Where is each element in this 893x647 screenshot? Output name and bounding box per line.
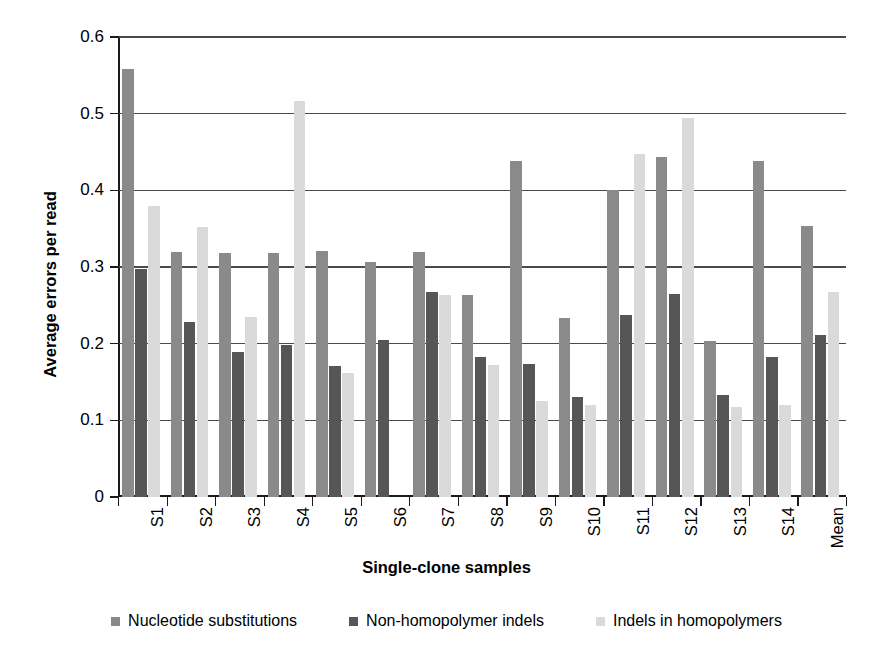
bar <box>475 357 487 497</box>
bar <box>523 364 535 497</box>
legend-label: Indels in homopolymers <box>613 612 782 630</box>
bar <box>171 252 183 497</box>
bar-group <box>656 37 694 497</box>
x-tick-label: S6 <box>391 507 410 527</box>
bar-group <box>171 37 209 497</box>
x-tick-label: S14 <box>779 507 798 536</box>
bar <box>378 340 390 497</box>
x-tick-label: S4 <box>294 507 313 527</box>
x-tick-mark <box>458 497 459 506</box>
legend-label: Nucleotide substitutions <box>128 612 297 630</box>
legend-item: Indels in homopolymers <box>596 612 782 630</box>
x-tick-mark <box>409 497 410 506</box>
bar <box>219 253 231 497</box>
x-tick-mark <box>361 497 362 506</box>
x-tick-mark <box>118 497 119 506</box>
x-tick-label: S1 <box>148 507 167 527</box>
bar <box>413 252 425 497</box>
bar <box>828 292 840 497</box>
bar <box>704 341 716 497</box>
x-tick-mark <box>167 497 168 506</box>
bar-group <box>365 37 403 497</box>
bar <box>669 294 681 497</box>
bar <box>682 118 694 498</box>
bar <box>488 365 500 497</box>
bar <box>620 315 632 497</box>
bar-group <box>801 37 839 497</box>
bar <box>779 405 791 497</box>
y-tick-mark <box>110 266 119 267</box>
x-tick-label: S8 <box>488 507 507 527</box>
x-tick-mark <box>652 497 653 506</box>
bar-group <box>268 37 306 497</box>
bar <box>510 161 522 497</box>
bar <box>462 295 474 497</box>
bar <box>184 322 196 497</box>
x-tick-label: S3 <box>245 507 264 527</box>
bar <box>365 262 377 497</box>
y-tick-label: 0.4 <box>44 180 104 200</box>
bar <box>148 206 160 497</box>
y-tick-label: 0.3 <box>44 257 104 277</box>
bar-group <box>219 37 257 497</box>
bar <box>766 357 778 497</box>
bar-group <box>704 37 742 497</box>
x-tick-label: S7 <box>439 507 458 527</box>
bar <box>731 407 743 497</box>
bar <box>585 405 597 497</box>
y-tick-mark <box>110 420 119 421</box>
x-tick-mark <box>312 497 313 506</box>
x-tick-label: S9 <box>537 507 556 527</box>
x-tick-mark <box>506 497 507 506</box>
bar <box>634 154 646 497</box>
bar <box>281 345 293 497</box>
bar-group <box>316 37 354 497</box>
bar <box>815 335 827 497</box>
y-tick-label: 0.1 <box>44 410 104 430</box>
x-tick-label: S2 <box>197 507 216 527</box>
x-tick-label: Mean <box>828 507 847 548</box>
y-tick-mark <box>110 36 119 37</box>
chart-legend: Nucleotide substitutionsNon-homopolymer … <box>0 612 893 630</box>
bar <box>135 269 147 497</box>
x-tick-label: S13 <box>731 507 750 536</box>
bar <box>268 253 280 497</box>
y-tick-label: 0.6 <box>44 27 104 47</box>
x-tick-mark <box>749 497 750 506</box>
x-tick-mark <box>797 497 798 506</box>
legend-item: Nucleotide substitutions <box>111 612 297 630</box>
bar <box>316 251 328 497</box>
bar <box>607 190 619 497</box>
bar <box>572 397 584 497</box>
y-tick-mark <box>110 113 119 114</box>
bar <box>329 366 341 497</box>
x-tick-mark <box>603 497 604 506</box>
bar <box>439 295 451 497</box>
bar <box>753 161 765 497</box>
bar-group <box>510 37 548 497</box>
y-tick-mark <box>110 190 119 191</box>
bar <box>122 69 134 497</box>
x-tick-label: S12 <box>682 507 701 536</box>
x-tick-label: S11 <box>634 507 653 535</box>
bar <box>717 395 729 497</box>
bar <box>656 157 668 497</box>
y-tick-label: 0 <box>44 487 104 507</box>
x-tick-mark <box>700 497 701 506</box>
bar-group <box>122 37 160 497</box>
x-tick-mark <box>846 497 847 506</box>
legend-swatch-icon <box>349 617 358 626</box>
bar-group <box>607 37 645 497</box>
bar <box>197 227 209 497</box>
bar-group <box>462 37 500 497</box>
x-tick-label: S10 <box>585 507 604 536</box>
x-tick-mark <box>264 497 265 506</box>
legend-item: Non-homopolymer indels <box>349 612 544 630</box>
x-tick-mark <box>555 497 556 506</box>
bar <box>245 317 257 497</box>
bar <box>426 292 438 497</box>
bar-group <box>559 37 597 497</box>
y-tick-label: 0.5 <box>44 104 104 124</box>
bar-group <box>413 37 451 497</box>
bar <box>294 101 306 497</box>
